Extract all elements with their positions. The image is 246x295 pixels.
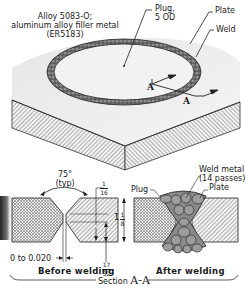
passes-label: (14 passes) bbox=[199, 174, 245, 183]
weld-ring bbox=[47, 39, 201, 105]
land-numerator: 1 bbox=[102, 180, 106, 187]
thickness-numerator: 1 bbox=[121, 211, 125, 218]
thickness-fraction: 1 8 bbox=[120, 212, 125, 227]
section-prefix: Section bbox=[98, 277, 128, 286]
plug-callout: Plug, 5 OD bbox=[155, 4, 175, 22]
plate-callout: Plate bbox=[215, 6, 235, 15]
plug-size-label: 5 OD bbox=[155, 13, 175, 22]
section-label: Section A-A bbox=[98, 274, 150, 287]
thickness-denominator: 8 bbox=[121, 220, 125, 227]
land-denominator: 16 bbox=[100, 189, 108, 196]
section-marker-a1: A bbox=[147, 83, 154, 92]
land-fraction: 1 16 bbox=[100, 181, 108, 196]
title-line-2: aluminum alloy filler metal bbox=[10, 21, 120, 30]
title-line-1: Alloy 5083-O; bbox=[10, 12, 120, 21]
plug-label: Plug, bbox=[155, 4, 175, 13]
weld-metal-callout: Weld metal (14 passes) bbox=[199, 165, 245, 183]
title-line-3: (ER5183) bbox=[10, 30, 120, 39]
gap-dimension: 0 to 0.020 bbox=[10, 254, 51, 263]
material-title: Alloy 5083-O; aluminum alloy filler meta… bbox=[10, 12, 120, 39]
plate-section-label: Plate bbox=[209, 183, 229, 192]
section-id: A-A bbox=[130, 274, 150, 287]
after-welding-caption: After welding bbox=[156, 266, 225, 276]
weld-callout: Weld bbox=[216, 25, 236, 34]
before-welding-section bbox=[12, 187, 118, 262]
plug-section-label: Plug bbox=[131, 185, 148, 194]
angle-value: 75° bbox=[53, 170, 77, 179]
thickness-label: 1 bbox=[114, 214, 119, 222]
angle-callout: 75° (typ) bbox=[53, 170, 77, 188]
angle-note: (typ) bbox=[53, 179, 77, 188]
thickness-whole: 1 bbox=[114, 213, 119, 222]
section-marker-a2: A bbox=[183, 97, 190, 106]
scan-artifact bbox=[0, 196, 12, 240]
weld-diagram-drawing bbox=[0, 0, 246, 295]
weld-metal-label: Weld metal bbox=[199, 165, 245, 174]
